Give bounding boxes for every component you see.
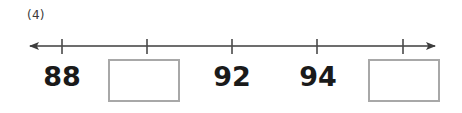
answer-box-1[interactable] (108, 59, 180, 102)
tick-label-94: 94 (278, 60, 358, 94)
answer-box-2[interactable] (368, 59, 440, 102)
worksheet-number-line-question: (4) 88 92 94 (0, 0, 462, 113)
number-line-labels: 88 92 94 (0, 0, 462, 113)
tick-label-88: 88 (22, 60, 102, 94)
tick-label-92: 92 (192, 60, 272, 94)
